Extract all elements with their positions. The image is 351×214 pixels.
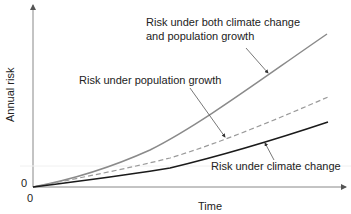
label-climate: Risk under climate change bbox=[211, 160, 341, 173]
series-population-line bbox=[33, 97, 328, 187]
y-axis-title: Annual risk bbox=[4, 68, 16, 122]
label-both-line2: and population growth bbox=[146, 30, 254, 43]
x-zero-tick: 0 bbox=[27, 192, 33, 205]
label-population: Risk under population growth bbox=[79, 74, 221, 87]
leader-both bbox=[246, 48, 268, 73]
y-zero-tick: 0 bbox=[21, 177, 27, 190]
leader-population bbox=[190, 88, 225, 137]
x-axis-title: Time bbox=[198, 200, 222, 213]
label-both-line1: Risk under both climate change bbox=[146, 16, 300, 29]
leader-climate bbox=[265, 143, 274, 160]
